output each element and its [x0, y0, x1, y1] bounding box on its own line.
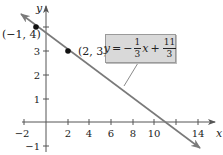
x-tick-label: 8: [130, 128, 136, 139]
fraction-denominator: 3: [167, 49, 173, 59]
x-tick-label: 6: [108, 128, 114, 139]
equation-lhs: y: [104, 42, 110, 55]
y-tick-label: 2: [34, 70, 40, 81]
x-tick-label: 4: [86, 128, 92, 139]
y-tick-label: 3: [34, 46, 40, 57]
point-marker: [65, 48, 71, 54]
fraction-eleven-thirds: 11 3: [163, 38, 176, 59]
equation-plus: +: [150, 42, 159, 55]
x-tick-label: −2: [15, 128, 30, 139]
callout-pointer: [124, 63, 138, 86]
equation-variable: x: [142, 42, 148, 55]
fraction-one-third: 1 3: [134, 38, 142, 59]
equation-callout: y = − 1 3 x + 11 3: [105, 34, 176, 63]
equation-minus: −: [123, 42, 132, 55]
plot-area: −2 2 4 6 8 10 14 x 3 2 1 −1 y (−1, 4) (2…: [0, 0, 223, 155]
x-tick-label: 10: [148, 128, 161, 139]
chart: −2 2 4 6 8 10 14 x 3 2 1 −1 y (−1, 4) (2…: [0, 0, 223, 155]
x-tick-label: 14: [192, 128, 205, 139]
y-axis-label: y: [35, 2, 43, 15]
x-tick-label: 2: [65, 128, 71, 139]
point-label: (−1, 4): [2, 28, 41, 41]
y-tick-label: 1: [34, 94, 40, 105]
y-tick-label: −1: [25, 141, 40, 152]
fraction-numerator: 11: [163, 38, 176, 49]
fraction-denominator: 3: [135, 49, 141, 59]
equation-equals: =: [112, 42, 121, 55]
x-axis-label: x: [216, 127, 223, 140]
fraction-numerator: 1: [134, 38, 142, 49]
